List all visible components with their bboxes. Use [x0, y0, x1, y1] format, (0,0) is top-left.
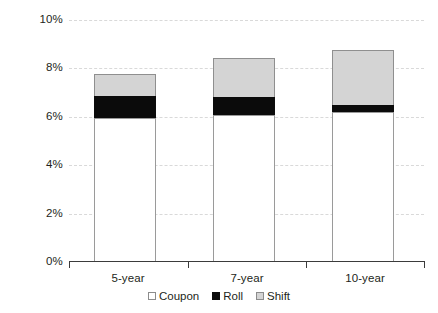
bar-segment-shift — [94, 74, 156, 96]
x-tick-mark — [306, 261, 307, 268]
bar-segment-shift — [213, 58, 275, 97]
x-tick-mark — [424, 261, 425, 268]
bar-segment-shift — [332, 50, 394, 105]
stacked-bar-chart: 10% 8% 6% 4% 2% 0% — [0, 0, 438, 313]
x-tick-label-5-year: 5-year — [68, 272, 188, 285]
x-tick-mark — [188, 261, 189, 268]
gridline-10 — [69, 20, 424, 21]
y-tick-label: 2% — [7, 208, 63, 220]
x-tick-label-7-year: 7-year — [187, 272, 307, 285]
bar-segment-roll — [213, 97, 275, 115]
bar-segment-roll — [332, 105, 394, 112]
x-axis-line — [69, 261, 425, 262]
bar-segment-coupon — [94, 118, 156, 262]
legend-item-roll: Roll — [212, 290, 243, 302]
legend-item-shift: Shift — [256, 290, 290, 302]
y-tick-label: 10% — [7, 14, 63, 26]
black-square-swatch-icon — [212, 292, 220, 300]
x-tick-label-10-year: 10-year — [305, 272, 425, 285]
legend-label: Coupon — [159, 290, 199, 302]
white-square-swatch-icon — [148, 292, 156, 300]
bar-5-year — [94, 74, 156, 262]
bar-7-year — [213, 58, 275, 262]
legend-label: Shift — [267, 290, 290, 302]
x-tick-mark — [69, 261, 70, 268]
bar-segment-coupon — [332, 112, 394, 262]
plot-area — [69, 20, 424, 262]
bar-10-year — [332, 50, 394, 262]
y-tick-label: 8% — [7, 62, 63, 74]
legend-label: Roll — [223, 290, 243, 302]
y-tick-label: 6% — [7, 111, 63, 123]
bar-segment-roll — [94, 96, 156, 118]
y-tick-label: 4% — [7, 159, 63, 171]
chart-legend: Coupon Roll Shift — [0, 290, 438, 302]
gray-square-swatch-icon — [256, 292, 264, 300]
y-tick-label: 0% — [7, 256, 63, 268]
y-axis-labels: 10% 8% 6% 4% 2% 0% — [0, 0, 63, 313]
bar-segment-coupon — [213, 115, 275, 262]
legend-item-coupon: Coupon — [148, 290, 199, 302]
